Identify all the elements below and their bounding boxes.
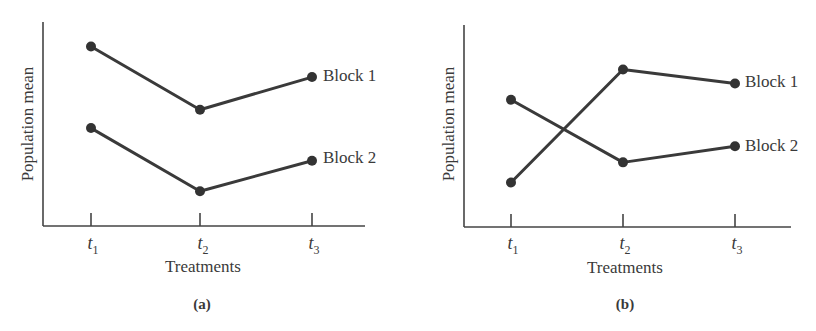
series-label-a-block2: Block 2 — [323, 148, 376, 168]
data-point-a-block2-t1 — [86, 123, 96, 133]
data-point-a-block1-t3 — [307, 72, 317, 82]
series-label-b-block2: Block 2 — [745, 136, 798, 156]
data-point-b-block2-t3 — [730, 141, 740, 151]
data-point-a-block2-t2 — [195, 186, 205, 196]
chart-canvas — [0, 0, 816, 331]
series-label-a-block1: Block 1 — [323, 66, 376, 86]
tick-label-b-t3: t3 — [731, 233, 742, 258]
data-point-a-block1-t1 — [86, 41, 96, 51]
data-point-b-block2-t1 — [506, 95, 516, 105]
data-point-a-block2-t3 — [307, 156, 317, 166]
series-line-a-block1 — [91, 46, 312, 109]
tick-label-a-t1: t1 — [87, 233, 98, 258]
tick-label-b-t2: t2 — [619, 233, 630, 258]
y-axis-label-b: Population mean — [439, 67, 459, 182]
x-axis-label-b: Treatments — [587, 258, 663, 278]
series-line-b-block2 — [511, 100, 735, 163]
y-axis-label-a: Population mean — [18, 67, 38, 182]
series-line-a-block2 — [91, 128, 312, 191]
data-point-b-block1-t1 — [506, 178, 516, 188]
data-point-b-block2-t2 — [618, 157, 628, 167]
panel-label-a: (a) — [193, 296, 211, 313]
data-point-b-block1-t3 — [730, 79, 740, 89]
panel-label-b: (b) — [616, 296, 634, 313]
tick-label-a-t2: t2 — [197, 233, 208, 258]
series-label-b-block1: Block 1 — [745, 72, 798, 92]
data-point-a-block1-t2 — [195, 105, 205, 115]
x-axis-label-a: Treatments — [165, 257, 241, 277]
tick-label-b-t1: t1 — [507, 233, 518, 258]
tick-label-a-t3: t3 — [308, 233, 319, 258]
data-point-b-block1-t2 — [618, 64, 628, 74]
